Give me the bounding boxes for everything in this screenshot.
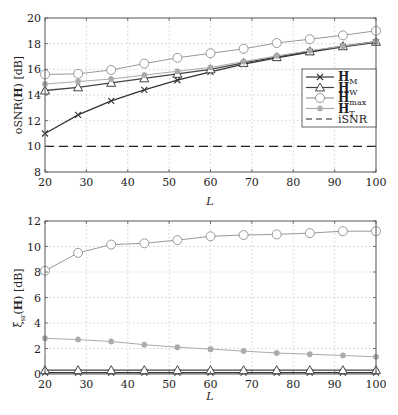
x-tick-label: 80 (286, 176, 300, 189)
star-marker-icon (274, 53, 280, 59)
star-marker-icon (174, 68, 180, 74)
star-marker-icon (307, 351, 313, 357)
star-marker-icon (75, 337, 81, 343)
circle-marker-icon (338, 31, 347, 40)
star-marker-icon (241, 348, 247, 354)
circle-marker-icon (140, 239, 149, 248)
x-tick-label: 50 (162, 176, 176, 189)
x-tick-label: 80 (286, 378, 300, 391)
x-tick-label: 70 (245, 176, 259, 189)
figure: 20304050607080901008101214161820 2030405… (0, 0, 398, 415)
star-marker-icon (75, 79, 81, 85)
y-tick-label: 12 (27, 215, 41, 228)
x-tick-label: 40 (121, 176, 135, 189)
bottom-x-axis-label: L (205, 390, 213, 403)
legend-label: iSNR (338, 113, 368, 126)
y-tick-label: 2 (34, 343, 41, 356)
star-marker-icon (108, 76, 114, 82)
y-tick-label: 12 (27, 115, 41, 128)
circle-marker-icon (206, 49, 215, 58)
star-marker-icon (108, 338, 114, 344)
circle-marker-icon (239, 231, 248, 240)
circle-marker-icon (74, 69, 83, 78)
x-tick-label: 90 (328, 378, 342, 391)
star-marker-icon (317, 106, 323, 112)
x-tick-label: 100 (366, 378, 387, 391)
circle-marker-icon (272, 230, 281, 239)
x-tick-label: 90 (328, 176, 342, 189)
circle-marker-icon (206, 232, 215, 241)
y-tick-label: 10 (27, 241, 41, 254)
x-tick-label: 30 (79, 378, 93, 391)
top-x-axis-label: L (205, 195, 213, 208)
x-tick-label: 70 (245, 378, 259, 391)
star-marker-icon (141, 72, 147, 78)
star-marker-icon (141, 342, 147, 348)
circle-marker-icon (338, 227, 347, 236)
y-tick-label: 18 (27, 38, 41, 51)
y-tick-label: 10 (27, 140, 41, 153)
star-marker-icon (208, 346, 214, 352)
y-tick-label: 16 (27, 63, 41, 76)
bottom-plot: 2030405060708090100024681012 (27, 215, 387, 391)
y-tick-label: 0 (34, 368, 41, 381)
circle-marker-icon (272, 39, 281, 48)
circle-marker-icon (74, 248, 83, 257)
circle-marker-icon (173, 53, 182, 62)
circle-marker-icon (239, 44, 248, 53)
circle-marker-icon (305, 35, 314, 44)
circle-marker-icon (140, 59, 149, 68)
x-tick-label: 40 (121, 378, 135, 391)
y-tick-label: 8 (34, 166, 41, 179)
circle-marker-icon (173, 236, 182, 245)
x-tick-label: 50 (162, 378, 176, 391)
y-tick-label: 20 (27, 12, 41, 25)
top-y-axis-label: oSNR(H) [dB] (12, 56, 25, 134)
circle-marker-icon (107, 65, 116, 74)
star-marker-icon (274, 350, 280, 356)
circle-marker-icon (107, 240, 116, 249)
legend: HMHWHmaxHTiSNR (302, 69, 376, 127)
y-tick-label: 14 (27, 89, 41, 102)
x-tick-label: 100 (366, 176, 387, 189)
star-marker-icon (241, 59, 247, 65)
star-marker-icon (208, 64, 214, 70)
star-marker-icon (340, 43, 346, 49)
x-tick-label: 30 (79, 176, 93, 189)
star-marker-icon (340, 353, 346, 359)
star-marker-icon (307, 48, 313, 54)
bottom-y-axis-label: ξsr(H) [dB] (12, 268, 27, 327)
star-marker-icon (174, 344, 180, 350)
circle-marker-icon (316, 94, 325, 103)
y-tick-label: 4 (34, 317, 41, 330)
x-marker-icon (75, 112, 81, 118)
x-tick-label: 60 (204, 176, 218, 189)
circle-marker-icon (305, 229, 314, 238)
y-tick-label: 6 (34, 292, 41, 305)
y-tick-label: 8 (34, 266, 41, 279)
